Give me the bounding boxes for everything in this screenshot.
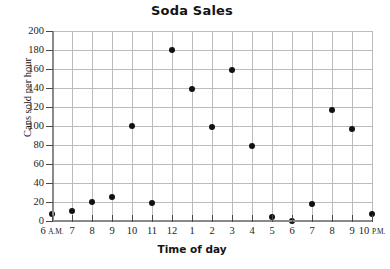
data-point xyxy=(209,124,215,130)
x-axis-tick xyxy=(92,215,93,222)
data-point xyxy=(249,143,255,149)
y-axis-tick xyxy=(46,202,53,203)
x-axis-tick xyxy=(272,215,273,222)
x-axis-tick xyxy=(72,215,73,222)
y-axis-tick xyxy=(46,164,53,165)
y-axis-tick-label: 20 xyxy=(4,197,44,207)
gridline-vertical xyxy=(272,31,273,221)
gridline-vertical xyxy=(92,31,93,221)
x-axis-tick xyxy=(172,215,173,222)
gridline-vertical xyxy=(252,31,253,221)
x-axis-tick xyxy=(52,215,53,222)
gridline-vertical xyxy=(192,31,193,221)
data-point xyxy=(89,199,95,205)
data-point xyxy=(309,201,315,207)
gridline-vertical xyxy=(312,31,313,221)
y-axis-title: Cans sold per hour xyxy=(22,23,33,173)
x-axis-tick xyxy=(312,215,313,222)
gridline-vertical xyxy=(112,31,113,221)
data-point xyxy=(129,123,135,129)
y-axis-tick xyxy=(46,183,53,184)
data-point xyxy=(229,67,235,73)
y-axis-tick xyxy=(46,31,53,32)
x-axis-tick xyxy=(132,215,133,222)
y-axis-tick xyxy=(46,107,53,108)
x-axis-tick xyxy=(152,215,153,222)
y-axis-tick xyxy=(46,126,53,127)
x-axis-tick xyxy=(112,215,113,222)
x-axis-tick xyxy=(332,215,333,222)
gridline-vertical xyxy=(152,31,153,221)
y-axis-tick xyxy=(46,145,53,146)
data-point xyxy=(69,208,75,214)
y-axis-tick xyxy=(46,50,53,51)
x-axis-tick xyxy=(252,215,253,222)
x-axis-tick xyxy=(232,215,233,222)
x-axis-tick-label: 10 P.M. xyxy=(352,225,390,237)
data-point xyxy=(349,126,355,132)
y-axis-tick xyxy=(46,88,53,89)
data-point xyxy=(169,47,175,53)
x-axis-tick xyxy=(192,215,193,222)
data-point xyxy=(149,200,155,206)
y-axis-tick-label: 40 xyxy=(4,178,44,188)
x-axis-title: Time of day xyxy=(0,243,384,255)
gridline-vertical xyxy=(172,31,173,221)
data-point xyxy=(189,86,195,92)
data-point xyxy=(329,107,335,113)
gridline-vertical xyxy=(232,31,233,221)
x-axis-tick xyxy=(212,215,213,222)
gridline-vertical xyxy=(72,31,73,221)
plot-area xyxy=(52,31,372,221)
chart-title: Soda Sales xyxy=(0,3,384,18)
gridline-vertical xyxy=(372,31,373,221)
x-axis-tick xyxy=(372,215,373,222)
y-axis-tick xyxy=(46,69,53,70)
gridline-vertical xyxy=(292,31,293,221)
gridline-vertical xyxy=(332,31,333,221)
x-axis-tick xyxy=(292,215,293,222)
x-axis-tick xyxy=(352,215,353,222)
